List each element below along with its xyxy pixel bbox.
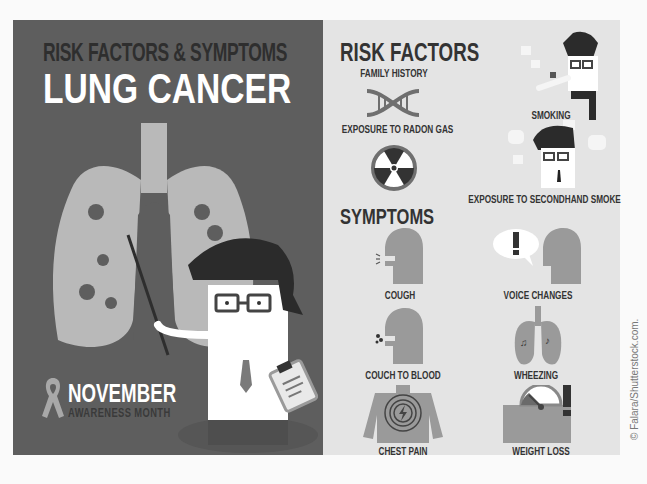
left-panel: RISK FACTORS & SYMPTOMS LUNG CANCER [13,20,323,455]
voice-changes-label: VOICE CHANGES [497,290,579,301]
radiation-icon [371,145,417,191]
radon-gas-label: EXPOSURE TO RADON GAS [342,124,440,135]
image-credit: © Falara/Shutterstock.com. [629,319,640,440]
cough-blood-label: COUCH TO BLOOD [362,370,444,381]
wheezing-lungs-icon: ♫ ♪ [513,306,563,366]
risk-factors-heading: RISK FACTORS [340,38,479,67]
cough-label: COUGH [375,290,424,301]
chest-pain-icon [361,385,445,445]
weight-loss-icon [501,385,581,445]
wheezing-label: WHEEZING [511,370,560,381]
awareness-caption: AWARENESS MONTH [68,406,171,420]
secondhand-smoke-icon [503,120,613,190]
right-panel: RISK FACTORS FAMILY HISTORY EXPOSURE TO … [323,20,620,455]
cough-blood-icon [373,306,433,366]
awareness-ribbon-icon [40,376,66,420]
weight-loss-label: WEIGHT LOSS [508,446,574,457]
dna-icon [365,87,421,119]
doctor-illustration [108,225,318,455]
awareness-month: NOVEMBER [68,378,176,409]
secondhand-smoke-label: EXPOSURE TO SECONDHAND SMOKE [468,194,607,205]
cough-icon [373,226,433,286]
svg-text:♪: ♪ [545,335,550,346]
family-history-label: FAMILY HISTORY [360,68,426,79]
voice-changes-icon [493,226,588,286]
page-title: LUNG CANCER [43,65,291,113]
smoking-man-icon [513,28,603,120]
svg-text:♫: ♫ [520,337,528,348]
chest-pain-label: CHEST PAIN [372,446,434,457]
subtitle: RISK FACTORS & SYMPTOMS [43,38,287,67]
